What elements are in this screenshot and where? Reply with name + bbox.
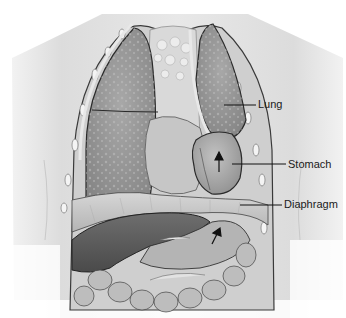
label-lung: Lung xyxy=(258,99,282,110)
label-stomach: Stomach xyxy=(288,159,331,170)
anatomy-figure: Lung Stomach Diaphragm xyxy=(0,0,346,318)
label-diaphragm: Diaphragm xyxy=(284,199,338,210)
